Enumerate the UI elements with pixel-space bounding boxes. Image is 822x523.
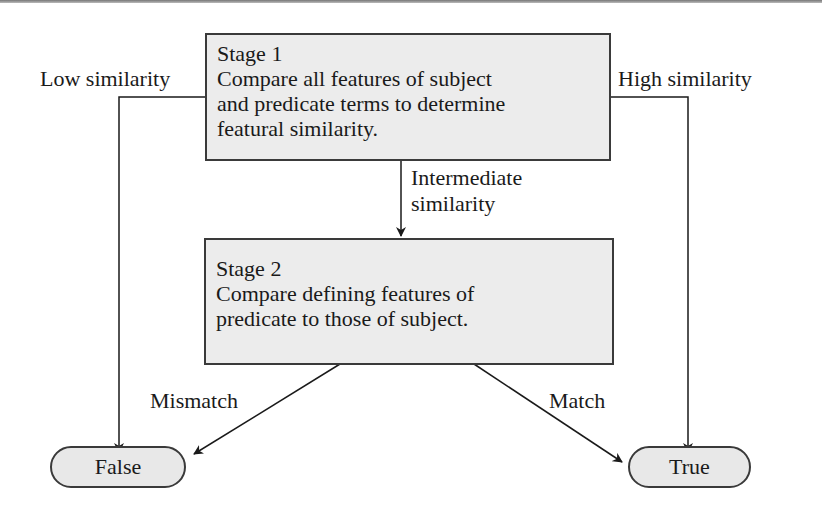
stage2-line-1: Compare defining features of	[216, 281, 602, 306]
high-similarity-arrow	[610, 97, 688, 452]
low-similarity-label: Low similarity	[40, 66, 170, 91]
stage1-line-3: featural similarity.	[217, 116, 599, 141]
mismatch-label: Mismatch	[150, 388, 238, 413]
stage1-title: Stage 1	[217, 41, 599, 66]
stage1-line-2: and predicate terms to determine	[217, 91, 599, 116]
stage2-box: Stage 2 Compare defining features of pre…	[204, 238, 614, 365]
false-label: False	[95, 454, 141, 480]
intermediate-label-2: similarity	[411, 191, 495, 216]
stage1-line-1: Compare all features of subject	[217, 66, 599, 91]
match-label: Match	[549, 388, 605, 413]
intermediate-label-1: Intermediate	[411, 165, 522, 190]
match-arrow	[474, 364, 622, 462]
stage1-box: Stage 1 Compare all features of subject …	[205, 33, 611, 161]
stage2-title: Stage 2	[216, 256, 602, 281]
true-terminal: True	[628, 446, 751, 488]
false-terminal: False	[50, 446, 186, 488]
true-label: True	[669, 454, 710, 480]
stage2-line-2: predicate to those of subject.	[216, 306, 602, 331]
high-similarity-label: High similarity	[618, 66, 752, 91]
